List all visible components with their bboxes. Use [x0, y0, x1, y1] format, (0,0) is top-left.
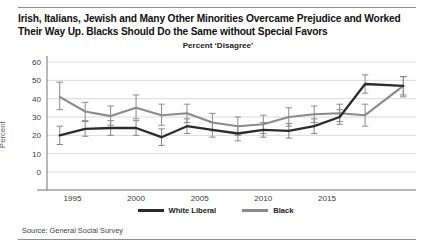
svg-text:0: 0: [36, 168, 41, 177]
svg-text:20: 20: [32, 131, 42, 140]
chart-title: Irish, Italians, Jewish and Many Other M…: [18, 13, 418, 38]
svg-text:2005: 2005: [191, 194, 210, 202]
bottom-divider: [18, 239, 416, 240]
svg-text:2000: 2000: [127, 194, 146, 202]
svg-text:2010: 2010: [254, 194, 273, 202]
svg-text:40: 40: [32, 95, 42, 104]
chart-legend: White Liberal Black: [0, 206, 431, 215]
top-divider: [18, 7, 416, 8]
svg-text:10: 10: [32, 150, 42, 159]
legend-label-black: Black: [273, 206, 293, 215]
svg-text:60: 60: [32, 58, 42, 67]
svg-text:2015: 2015: [318, 194, 337, 202]
legend-item-white-liberal: White Liberal: [138, 206, 217, 215]
svg-text:1995: 1995: [63, 194, 82, 202]
legend-item-black: Black: [242, 206, 293, 215]
legend-label-white-liberal: White Liberal: [169, 206, 217, 215]
legend-swatch-white-liberal: [138, 209, 164, 212]
svg-text:30: 30: [32, 113, 42, 122]
plot-area: Percent 01020304050601995200020052010201…: [0, 52, 431, 202]
line-chart: 010203040506019952000200520102015: [0, 52, 431, 202]
y-axis-label: Percent: [0, 121, 7, 148]
source-note: Source: General Social Survey: [22, 226, 123, 235]
chart-subtitle: Percent ‘Disagree’: [18, 41, 418, 50]
legend-swatch-black: [242, 209, 268, 212]
svg-text:50: 50: [32, 76, 42, 85]
